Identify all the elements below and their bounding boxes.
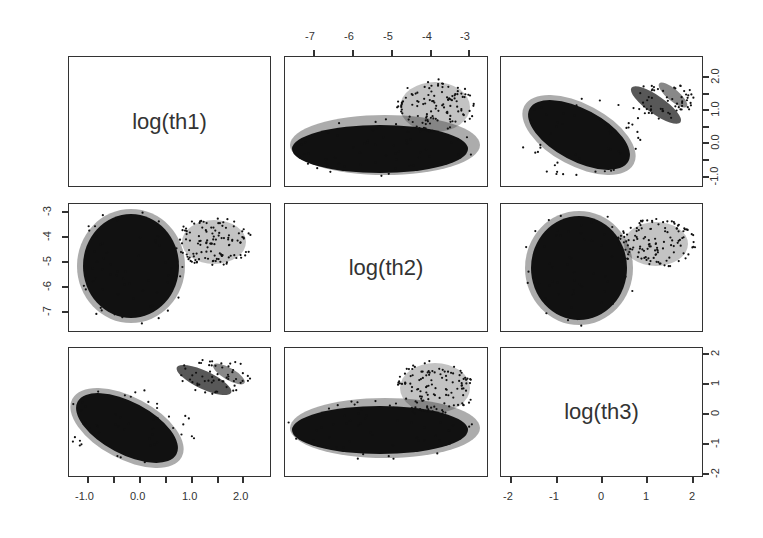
variable-label-th1: log(th1) — [69, 109, 270, 135]
tick-label: -5 — [41, 256, 53, 266]
tick-label: 2 — [689, 490, 695, 502]
scatter-th3-vs-th2 — [500, 203, 703, 332]
tick-label: 2.0 — [233, 490, 248, 502]
variable-label-th2: log(th2) — [285, 255, 487, 281]
tick-label: 0.0 — [130, 490, 145, 502]
tick-label: -2 — [709, 468, 721, 478]
tick-label: -3 — [460, 30, 470, 42]
tick-label: 0 — [709, 410, 721, 416]
variable-label-th3: log(th3) — [501, 399, 702, 425]
tick-label: -4 — [41, 231, 53, 241]
tick-label: -1.0 — [708, 167, 720, 186]
tick-label: -4 — [422, 30, 432, 42]
tick-label: -1.0 — [75, 490, 94, 502]
tick-label: 2 — [709, 350, 721, 356]
tick-label: -6 — [344, 30, 354, 42]
scatter-th2-vs-th3 — [284, 347, 488, 477]
tick-label: -6 — [41, 281, 53, 291]
tick-label: 1 — [709, 380, 721, 386]
scatter-points — [285, 348, 488, 477]
scatter-th3-vs-th1 — [500, 56, 703, 187]
scatter-th2-vs-th1 — [284, 56, 488, 187]
scatter-points — [69, 348, 271, 477]
scatter-points — [501, 204, 703, 332]
tick-label: -2 — [503, 490, 513, 502]
tick-label: 1 — [643, 490, 649, 502]
tick-label: 2.0 — [709, 68, 721, 83]
tick-label: -3 — [41, 206, 53, 216]
tick-label: 1.0 — [182, 490, 197, 502]
tick-label: 0 — [598, 490, 604, 502]
tick-label: -5 — [383, 30, 393, 42]
scatter-points — [69, 204, 271, 332]
tick-label: -7 — [41, 306, 53, 316]
scatter-points — [501, 57, 703, 187]
scatter-th1-vs-th3 — [68, 347, 271, 477]
panel-label-th2: log(th2) — [284, 203, 488, 332]
scatter-th1-vs-th2 — [68, 203, 271, 332]
tick-label: -1 — [709, 438, 721, 448]
tick-label: -1 — [549, 490, 559, 502]
panel-label-th3: log(th3) — [500, 347, 703, 477]
tick-label: 1.0 — [709, 101, 721, 116]
tick-label: -7 — [305, 30, 315, 42]
tick-label: 0.0 — [709, 134, 721, 149]
scatter-points — [285, 57, 488, 187]
panel-label-th1: log(th1) — [68, 56, 271, 187]
